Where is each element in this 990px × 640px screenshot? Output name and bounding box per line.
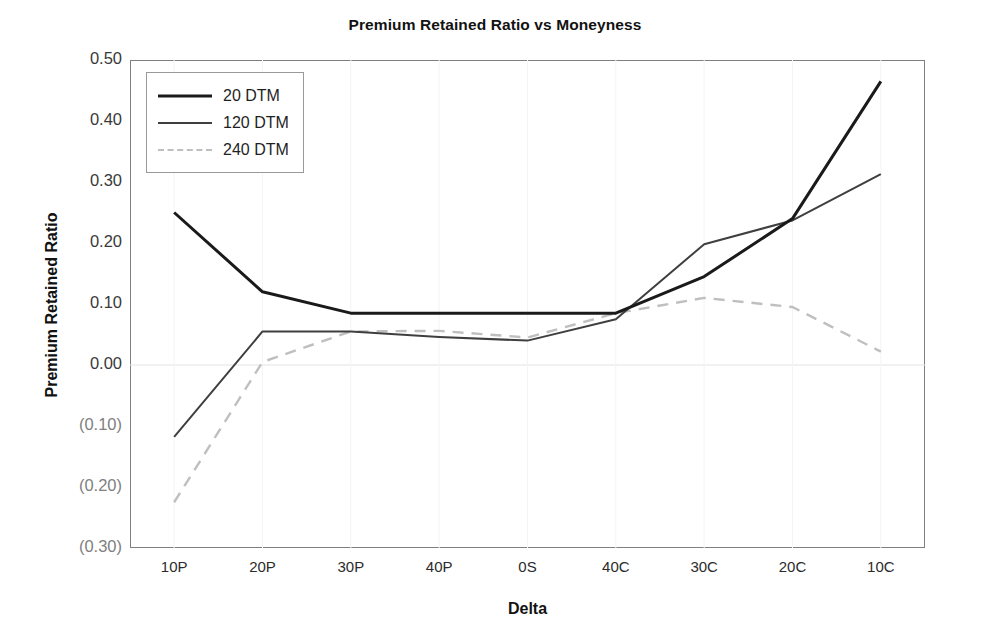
x-tick-label: 40P — [394, 558, 484, 575]
y-tick-label: 0.50 — [50, 49, 122, 68]
x-axis-title: Delta — [130, 600, 925, 618]
y-axis-tick-labels: 0.500.400.300.200.100.00(0.10)(0.20)(0.3… — [42, 0, 122, 640]
chart-title: Premium Retained Ratio vs Moneyness — [0, 16, 990, 34]
chart-legend: 20 DTM120 DTM240 DTM — [146, 72, 304, 173]
y-tick-label: 0.10 — [50, 293, 122, 312]
legend-line-swatch — [158, 116, 212, 130]
x-tick-label: 10C — [836, 558, 926, 575]
x-tick-label: 20P — [218, 558, 308, 575]
legend-item[interactable]: 120 DTM — [158, 109, 289, 136]
x-tick-label: 20C — [748, 558, 838, 575]
legend-item[interactable]: 20 DTM — [158, 82, 289, 109]
x-tick-label: 0S — [483, 558, 573, 575]
x-tick-label: 30C — [659, 558, 749, 575]
chart-canvas: Premium Retained Ratio vs Moneyness Prem… — [0, 0, 990, 640]
y-tick-label: (0.30) — [50, 537, 122, 556]
y-tick-label: (0.10) — [50, 415, 122, 434]
y-tick-label: (0.20) — [50, 476, 122, 495]
y-tick-label: 0.20 — [50, 232, 122, 251]
x-tick-label: 10P — [129, 558, 219, 575]
x-tick-label: 40C — [571, 558, 661, 575]
legend-item-label: 20 DTM — [223, 87, 280, 105]
legend-line-swatch — [158, 143, 212, 157]
y-tick-label: 0.30 — [50, 171, 122, 190]
legend-line-swatch — [158, 89, 212, 103]
x-tick-label: 30P — [306, 558, 396, 575]
y-tick-label: 0.00 — [50, 354, 122, 373]
y-tick-label: 0.40 — [50, 110, 122, 129]
legend-item-label: 240 DTM — [223, 141, 289, 159]
legend-item[interactable]: 240 DTM — [158, 136, 289, 163]
legend-item-label: 120 DTM — [223, 114, 289, 132]
